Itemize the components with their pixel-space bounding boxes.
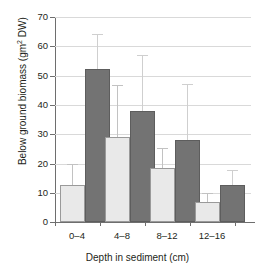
xtick-label-12-16: 12–16 bbox=[188, 230, 236, 241]
error-stem bbox=[117, 85, 118, 137]
x-axis-line bbox=[55, 222, 255, 223]
x-axis-title: Depth in sediment (cm) bbox=[0, 252, 275, 263]
xtick-mark bbox=[190, 222, 191, 226]
gridline bbox=[55, 46, 251, 47]
bar-light-0-4 bbox=[60, 185, 85, 222]
plot-area bbox=[55, 17, 251, 222]
bar-light-12-16 bbox=[195, 202, 220, 222]
error-cap bbox=[182, 84, 193, 85]
y-axis-title-suffix: DW) bbox=[17, 17, 28, 40]
y-axis-title-superscript: 2 bbox=[16, 40, 23, 44]
bar-light-8-12 bbox=[150, 168, 175, 222]
error-cap bbox=[92, 34, 103, 35]
xtick-mark bbox=[145, 222, 146, 226]
ytick-label: 10 bbox=[4, 188, 48, 198]
gridline bbox=[55, 17, 251, 18]
error-cap bbox=[202, 193, 213, 194]
xtick-label-4-8: 4–8 bbox=[98, 230, 146, 241]
error-cap bbox=[157, 148, 168, 149]
y-axis-title: Below ground biomass (gm2 DW) bbox=[14, 0, 28, 186]
error-stem bbox=[207, 193, 208, 202]
error-cap bbox=[137, 55, 148, 56]
xtick-mark bbox=[55, 222, 56, 226]
error-cap bbox=[67, 164, 78, 165]
error-cap bbox=[227, 170, 238, 171]
xtick-label-8-12: 8–12 bbox=[143, 230, 191, 241]
error-stem bbox=[142, 55, 143, 111]
bar-dark-12-16 bbox=[220, 185, 245, 222]
xtick-mark bbox=[100, 222, 101, 226]
ytick-label: 0 bbox=[4, 217, 48, 227]
xtick-mark bbox=[235, 222, 236, 226]
xtick-label-0-4: 0–4 bbox=[53, 230, 101, 241]
error-stem bbox=[232, 170, 233, 185]
error-stem bbox=[187, 84, 188, 140]
chart-figure: 70 60 50 40 30 20 10 0 bbox=[0, 0, 275, 277]
y-axis-title-prefix: Below ground biomass (gm bbox=[17, 44, 28, 165]
bar-light-4-8 bbox=[105, 137, 130, 222]
error-cap bbox=[112, 85, 123, 86]
